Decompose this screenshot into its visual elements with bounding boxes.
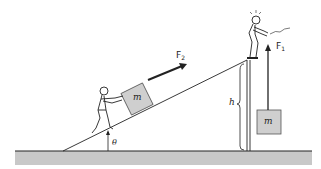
angle-arrow-icon <box>106 130 110 151</box>
force-f2-subscript: 2 <box>181 54 185 61</box>
diagram-canvas <box>0 0 321 169</box>
height-brace <box>237 64 244 150</box>
height-label: h <box>229 98 235 107</box>
force-arrow-f2-icon <box>148 63 187 80</box>
pole <box>247 60 250 151</box>
mass-label-ramp: m <box>133 93 142 102</box>
force-arrow-f1-icon <box>265 44 271 110</box>
person-pushing-icon <box>92 87 123 133</box>
rope-loose-end <box>270 28 290 34</box>
force-label-f2: F2 <box>176 51 185 61</box>
mass-label-hanging: m <box>264 117 273 126</box>
ramp <box>63 60 247 151</box>
ground <box>15 151 312 165</box>
person-lifting-icon <box>247 10 268 58</box>
force-label-f1: F1 <box>276 42 285 52</box>
incline-vs-lift-diagram: m m F2 F1 h θ <box>0 0 321 169</box>
force-f1-subscript: 1 <box>281 45 285 52</box>
angle-label: θ <box>112 139 117 147</box>
